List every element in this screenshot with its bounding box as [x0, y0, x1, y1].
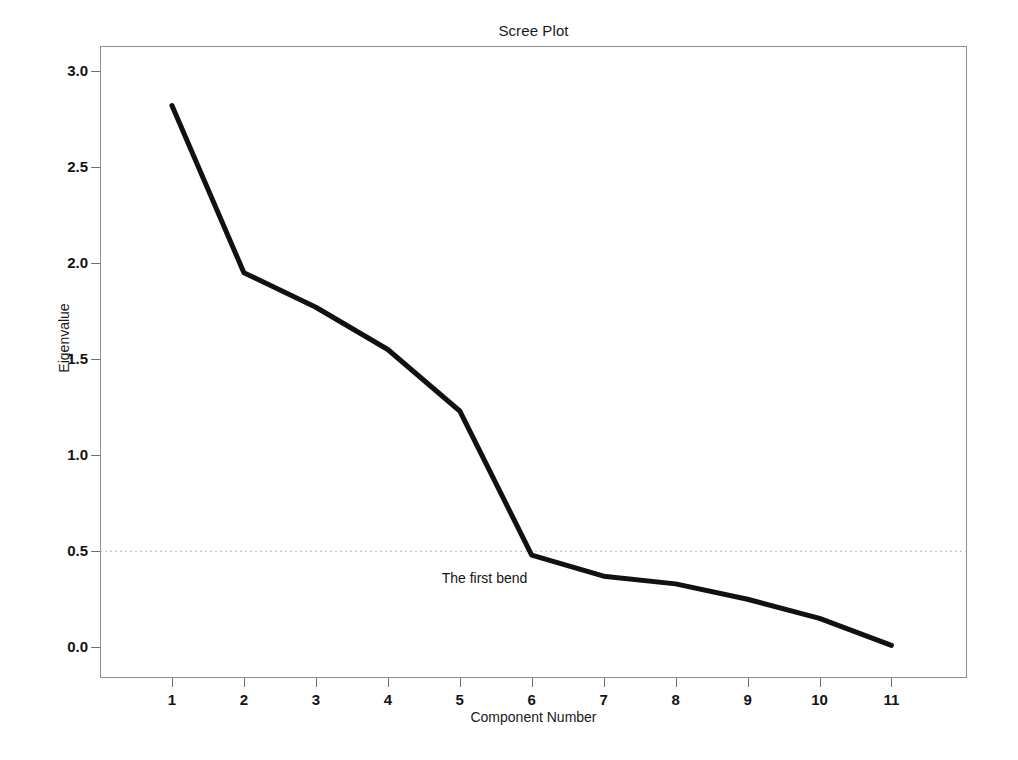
x-tick-label: 6	[512, 692, 552, 707]
y-tick-label: 0.5	[42, 543, 88, 558]
x-tick-label: 10	[800, 692, 840, 707]
y-tick-label: 2.0	[42, 255, 88, 270]
x-tick-mark	[748, 678, 749, 687]
y-tick-mark	[91, 551, 100, 552]
y-axis-title: Eigenvalue	[56, 268, 72, 408]
y-tick-mark	[91, 263, 100, 264]
x-tick-mark	[460, 678, 461, 687]
x-tick-mark	[676, 678, 677, 687]
y-tick-mark	[91, 359, 100, 360]
plot-area	[100, 46, 967, 678]
y-tick-label: 3.0	[42, 63, 88, 78]
x-tick-label: 3	[296, 692, 336, 707]
x-tick-label: 8	[656, 692, 696, 707]
x-tick-mark	[316, 678, 317, 687]
x-tick-mark	[532, 678, 533, 687]
y-tick-mark	[91, 71, 100, 72]
scree-plot-figure: Scree Plot Eigenvalue 0.00.51.01.52.02.5…	[0, 0, 1018, 760]
y-tick-mark	[91, 455, 100, 456]
eigenvalue-line	[172, 106, 892, 646]
x-tick-label: 2	[224, 692, 264, 707]
x-axis-title: Component Number	[100, 709, 967, 725]
x-tick-label: 11	[871, 692, 911, 707]
x-tick-label: 4	[368, 692, 408, 707]
y-tick-label: 1.0	[42, 447, 88, 462]
first-bend-annotation: The first bend	[442, 570, 528, 586]
x-tick-label: 1	[152, 692, 192, 707]
x-tick-mark	[820, 678, 821, 687]
x-tick-label: 5	[440, 692, 480, 707]
x-tick-label: 7	[584, 692, 624, 707]
x-tick-mark	[244, 678, 245, 687]
y-tick-label: 0.0	[42, 639, 88, 654]
x-tick-mark	[891, 678, 892, 687]
chart-title: Scree Plot	[100, 22, 967, 39]
y-tick-label: 2.5	[42, 159, 88, 174]
y-tick-label: 1.5	[42, 351, 88, 366]
x-tick-mark	[388, 678, 389, 687]
y-tick-mark	[91, 647, 100, 648]
x-tick-mark	[604, 678, 605, 687]
x-tick-label: 9	[728, 692, 768, 707]
x-tick-mark	[172, 678, 173, 687]
y-tick-mark	[91, 167, 100, 168]
